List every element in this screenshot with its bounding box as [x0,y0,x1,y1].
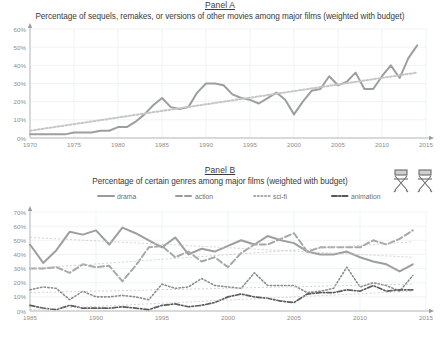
y-tick-label: 30% [14,80,27,87]
panel-a: Panel A Percentage of sequels, remakes, … [0,0,440,165]
y-tick-label: 10% [14,116,27,123]
y-tick-label: 20% [14,279,27,286]
panel-a-plot: 0%10%20%30%40%50%60%19701975198019851990… [0,21,440,156]
y-tick-label: 50% [14,237,27,244]
y-axis-arrow [28,23,32,28]
panel-b-title: Percentage of certain genres among major… [0,177,440,186]
legend-item-animation[interactable]: animation [332,193,381,200]
x-tick-label: 2005 [287,314,301,321]
panel-a-chart: 0%10%20%30%40%50%60%19701975198019851990… [0,21,440,156]
x-axis-arrow [429,309,434,313]
x-tick-label: 2015 [419,314,433,321]
x-tick-label: 1990 [199,141,213,148]
x-tick-label: 1985 [23,314,37,321]
x-tick-label: 2010 [375,141,389,148]
legend-label-action: action [195,193,213,200]
panel-a-label-text: Panel A [205,0,235,10]
y-tick-label: 30% [14,265,27,272]
x-axis-arrow [429,136,434,140]
x-tick-label: 1970 [23,141,37,148]
y-tick-label: 20% [14,98,27,105]
x-tick-label: 2010 [353,314,367,321]
y-tick-label: 60% [14,26,27,33]
x-tick-label: 1985 [155,141,169,148]
y-tick-label: 70% [14,209,27,216]
panel-b: Panel B Percentage of certain genres amo… [0,165,440,339]
x-tick-label: 1995 [243,141,257,148]
x-tick-label: 1975 [67,141,81,148]
y-axis-arrow [28,206,32,211]
x-tick-label: 2000 [221,314,235,321]
x-tick-label: 2000 [287,141,301,148]
panel-b-label: Panel B [0,165,440,175]
legend-label-sci-fi: sci-fi [273,193,287,200]
legend-label-drama: drama [117,193,136,200]
panel-b-label-text: Panel B [205,165,235,175]
x-tick-label: 1990 [89,314,103,321]
x-tick-label: 2015 [419,141,433,148]
series-line-sequels,-remakes-or-versions [30,45,417,134]
y-tick-label: 50% [14,44,27,51]
legend-item-sci-fi[interactable]: sci-fi [254,193,287,200]
y-tick-label: 60% [14,223,27,230]
panel-a-label: Panel A [0,0,440,10]
legend-label-animation: animation [351,193,381,200]
panel-b-plot: 0%10%20%30%40%50%60%70%19851990199520002… [0,186,440,331]
y-tick-label: 40% [14,251,27,258]
series-line-animation [30,286,413,310]
x-tick-label: 2005 [331,141,345,148]
legend-item-drama[interactable]: drama [98,193,136,200]
y-tick-label: 40% [14,62,27,69]
x-tick-label: 1995 [155,314,169,321]
y-tick-label: 10% [14,293,27,300]
legend-item-action[interactable]: action [176,193,213,200]
panel-b-chart: 0%10%20%30%40%50%60%70%19851990199520002… [0,186,440,331]
x-tick-label: 1980 [111,141,125,148]
panel-a-title: Percentage of sequels, remakes, or versi… [0,12,440,21]
series-line-sci-fi [30,267,413,300]
